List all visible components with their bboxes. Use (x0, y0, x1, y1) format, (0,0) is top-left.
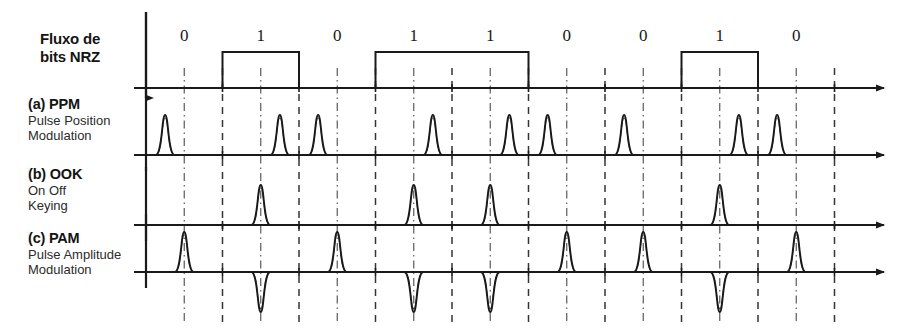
bit-label: 1 (257, 26, 266, 45)
bit-label: 0 (180, 26, 189, 45)
bit-label: 1 (486, 26, 495, 45)
bit-label: 0 (639, 26, 648, 45)
ppm-pulse (309, 115, 328, 155)
bit-label: 0 (563, 26, 572, 45)
ppm-pulse (729, 115, 748, 155)
bit-label-group: 010110010 (180, 26, 801, 45)
bit-label: 1 (410, 26, 419, 45)
ppm-pulse (423, 115, 442, 155)
bit-label: 0 (792, 26, 801, 45)
ppm-pulse (500, 115, 519, 155)
ppm-pulse (768, 115, 787, 155)
waveform-plot: 010110010 (0, 0, 900, 328)
bit-guide-lines (184, 68, 834, 322)
bit-label: 1 (716, 26, 725, 45)
ppm-pulse (156, 115, 175, 155)
ppm-pulse (270, 115, 289, 155)
ppm-ook-pam-waveform-figure: Fluxo de bits NRZ (a) PPM Pulse Position… (0, 0, 900, 328)
ppm-pulse (538, 115, 557, 155)
bit-label: 0 (333, 26, 342, 45)
ppm-pulse (615, 115, 634, 155)
